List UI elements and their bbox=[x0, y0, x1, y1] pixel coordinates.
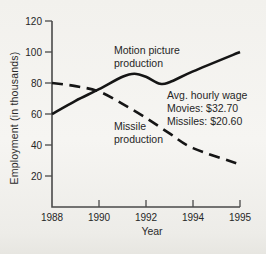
y-tick-label: 100 bbox=[25, 47, 42, 58]
wage-annotation: Avg. hourly wage Movies: $32.70 Missiles… bbox=[167, 89, 247, 128]
wage-annotation-line: Avg. hourly wage bbox=[167, 89, 247, 102]
x-tick-label: 1990 bbox=[88, 212, 111, 223]
y-axis-title: Employment (in thousands) bbox=[8, 52, 20, 185]
y-tick-label: 20 bbox=[31, 171, 43, 182]
series-label-line: Motion picture bbox=[114, 44, 180, 57]
series-label-line: production bbox=[114, 133, 163, 146]
series-label-line: production bbox=[114, 57, 180, 70]
x-tick-label: 1995 bbox=[229, 212, 252, 223]
x-tick-label: 1994 bbox=[182, 212, 205, 223]
wage-annotation-line: Movies: $32.70 bbox=[167, 102, 247, 115]
series-label-motion-picture: Motion picture production bbox=[114, 44, 180, 70]
series-label-line: Missile bbox=[114, 120, 163, 133]
y-tick-label: 40 bbox=[31, 140, 43, 151]
series-label-missile: Missile production bbox=[114, 120, 163, 146]
wage-annotation-line: Missiles: $20.60 bbox=[167, 115, 247, 128]
x-tick-label: 1992 bbox=[135, 212, 158, 223]
x-axis-title: Year bbox=[141, 225, 162, 237]
y-tick-label: 60 bbox=[31, 109, 43, 120]
y-tick-label: 120 bbox=[25, 16, 42, 27]
chart-figure: 2040608010012019881990199219941995 Emplo… bbox=[0, 0, 266, 254]
y-tick-label: 80 bbox=[31, 78, 43, 89]
x-tick-label: 1988 bbox=[41, 212, 64, 223]
